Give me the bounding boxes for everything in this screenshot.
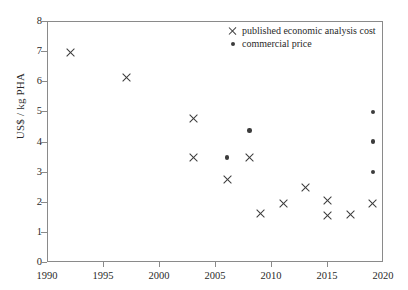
data-point-marker	[367, 198, 378, 209]
x-axis-tick-mark	[271, 262, 272, 267]
data-point-marker	[188, 113, 199, 124]
x-axis-tick-label: 1990	[25, 270, 69, 281]
data-point-marker	[222, 174, 233, 185]
data-point-marker	[323, 195, 334, 206]
plot-area	[47, 21, 383, 262]
data-point-marker	[121, 72, 132, 83]
data-point-marker	[345, 209, 356, 220]
x-axis-tick-label: 2015	[305, 270, 349, 281]
data-point-marker	[188, 152, 199, 163]
data-point-marker	[371, 170, 375, 174]
legend-item: commercial price	[226, 37, 376, 50]
y-axis-tick-mark	[41, 262, 47, 263]
data-point-marker	[255, 208, 266, 219]
data-point-marker	[225, 155, 229, 159]
x-axis-tick-label: 2010	[249, 270, 293, 281]
data-point-marker	[300, 182, 311, 193]
dot-marker-icon	[226, 38, 240, 50]
scatter-chart-figure: US$ / kg PHA 012345678 19901995200020052…	[0, 0, 408, 290]
x-axis-tick-mark	[103, 262, 104, 267]
x-axis-tick-mark	[215, 262, 216, 267]
data-point-marker	[371, 110, 375, 114]
legend-item-label: commercial price	[240, 37, 312, 50]
x-axis-tick-label: 2020	[361, 270, 405, 281]
data-point-marker	[247, 128, 251, 132]
data-point-marker	[371, 139, 375, 143]
legend-item-label: published economic analysis cost	[240, 24, 376, 37]
legend-item: published economic analysis cost	[226, 24, 376, 37]
data-point-marker	[278, 198, 289, 209]
chart-legend: published economic analysis costcommerci…	[226, 24, 376, 50]
data-point-marker	[65, 47, 76, 58]
data-point-marker	[323, 210, 334, 221]
data-point-marker	[244, 152, 255, 163]
x-axis-tick-label: 2005	[193, 270, 237, 281]
x-axis-tick-label: 2000	[137, 270, 181, 281]
x-axis-tick-label: 1995	[81, 270, 125, 281]
cross-marker-icon	[226, 25, 240, 37]
x-axis-tick-mark	[327, 262, 328, 267]
x-axis-tick-mark	[159, 262, 160, 267]
